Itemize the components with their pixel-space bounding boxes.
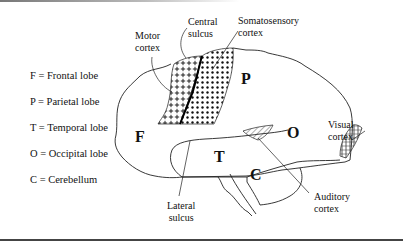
lobe-label-frontal: F (135, 128, 145, 146)
somatosensory-cortex-label: Somatosensory cortex (238, 15, 299, 39)
lobe-label-temporal: T (214, 148, 225, 166)
lobe-label-parietal: P (241, 70, 251, 88)
lobe-label-occipital: O (287, 124, 299, 142)
auditory-cortex-leader (258, 138, 309, 193)
auditory-cortex-region (243, 125, 273, 140)
lobe-label-cerebellum: C (250, 166, 262, 184)
motor-cortex-leader (152, 57, 172, 92)
motor-cortex-label: Motor cortex (135, 30, 160, 54)
lateral-sulcus-leader (179, 141, 190, 196)
cerebrum-outline (115, 48, 352, 178)
auditory-cortex-label: Auditory cortex (314, 191, 350, 215)
central-sulcus-leader (181, 28, 187, 58)
central-sulcus-label: Central sulcus (188, 16, 217, 40)
visual-cortex-label: Visual cortex (328, 119, 354, 143)
bottom-rule (0, 239, 403, 241)
lateral-sulcus-label: Lateral sulcus (167, 200, 195, 224)
